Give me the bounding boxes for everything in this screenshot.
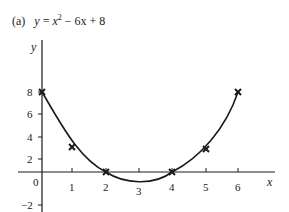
y-tick-neg2: −2 xyxy=(21,199,33,211)
y-tick-2: 2 xyxy=(27,153,33,165)
y-tick-8: 8 xyxy=(27,86,33,98)
x-tick-5: 5 xyxy=(203,181,209,193)
y-tick-6: 6 xyxy=(27,108,33,120)
y-axis-label: y xyxy=(30,40,37,54)
x-tick-6: 6 xyxy=(235,181,241,193)
x-tick-0: 0 xyxy=(33,176,39,188)
x-tick-4: 4 xyxy=(169,181,175,193)
plot-area: y x 8 6 4 2 −2 0 1 2 3 4 5 6 xyxy=(0,0,289,212)
parabola-curve xyxy=(42,92,238,182)
data-point-markers xyxy=(39,89,241,175)
y-tick-4: 4 xyxy=(27,131,33,143)
point-marker-1-3 xyxy=(69,144,75,150)
x-tick-1: 1 xyxy=(69,181,75,193)
x-tick-3: 3 xyxy=(136,185,142,197)
x-tick-2: 2 xyxy=(103,181,109,193)
x-axis-label: x xyxy=(266,175,273,189)
